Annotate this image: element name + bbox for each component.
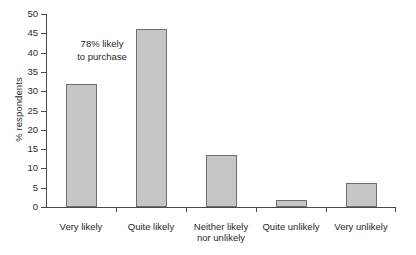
y-tick xyxy=(41,91,46,92)
y-tick xyxy=(41,53,46,54)
category-label: Quite likely xyxy=(113,221,189,232)
bar xyxy=(66,84,97,207)
y-tick xyxy=(41,168,46,169)
y-tick-label: 20 xyxy=(12,125,38,135)
y-axis-tick-labels: 05101520253035404550 xyxy=(12,14,38,207)
y-tick-label: 15 xyxy=(12,144,38,154)
x-tick xyxy=(326,207,327,212)
x-tick xyxy=(186,207,187,212)
bar xyxy=(276,200,307,207)
y-tick xyxy=(41,111,46,112)
bar xyxy=(206,155,237,207)
category-label: Very unlikely xyxy=(323,221,399,232)
category-label: Neither likely nor unlikely xyxy=(183,221,259,243)
y-tick xyxy=(41,14,46,15)
y-tick-label: 10 xyxy=(12,163,38,173)
y-tick-label: 5 xyxy=(12,183,38,193)
y-tick-label: 25 xyxy=(12,106,38,116)
category-label: Quite unlikely xyxy=(253,221,329,232)
x-tick xyxy=(116,207,117,212)
y-tick xyxy=(41,33,46,34)
y-tick-label: 40 xyxy=(12,48,38,58)
x-axis-line xyxy=(46,207,396,208)
y-tick-label: 0 xyxy=(12,202,38,212)
y-tick xyxy=(41,130,46,131)
y-axis-line xyxy=(46,14,47,207)
y-tick-label: 35 xyxy=(12,67,38,77)
y-tick xyxy=(41,207,46,208)
x-tick xyxy=(395,207,396,212)
y-tick-label: 50 xyxy=(12,9,38,19)
y-tick xyxy=(41,188,46,189)
bar xyxy=(346,183,377,207)
y-tick xyxy=(41,72,46,73)
bar-chart-figure: % respondents 05101520253035404550 Very … xyxy=(0,0,416,255)
y-tick-label: 30 xyxy=(12,86,38,96)
y-tick xyxy=(41,149,46,150)
category-label: Very likely xyxy=(43,221,119,232)
x-tick xyxy=(256,207,257,212)
y-tick-label: 45 xyxy=(12,28,38,38)
chart-annotation: 78% likely to purchase xyxy=(60,38,144,63)
